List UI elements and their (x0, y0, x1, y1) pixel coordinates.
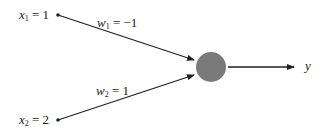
input-value-x1: = 1 (32, 7, 49, 22)
input-label-x1: x1 = 1 (19, 8, 49, 22)
perceptron-diagram: x1 = 1 w1 = −1 w2 = 1 x2 = 2 y (0, 0, 330, 134)
weight-label-w1: w1 = −1 (97, 16, 137, 30)
output-var-y: y (305, 58, 311, 73)
input-sub-x2: 2 (25, 119, 29, 128)
output-label-y: y (305, 59, 311, 73)
weight-value-w2: = 1 (112, 83, 129, 98)
weight-label-w2: w2 = 1 (96, 84, 129, 98)
weight-value-w1: = −1 (113, 15, 137, 30)
weight-sub-w1: 1 (106, 22, 110, 31)
input-label-x2: x2 = 2 (19, 113, 49, 127)
input-value-x2: = 2 (32, 112, 49, 127)
weight-sub-w2: 2 (105, 90, 109, 99)
neuron-node (196, 52, 226, 82)
weight-var-w2: w (96, 83, 105, 98)
diagram-graphics (0, 0, 330, 134)
input-sub-x1: 1 (25, 14, 29, 23)
weight-var-w1: w (97, 15, 106, 30)
